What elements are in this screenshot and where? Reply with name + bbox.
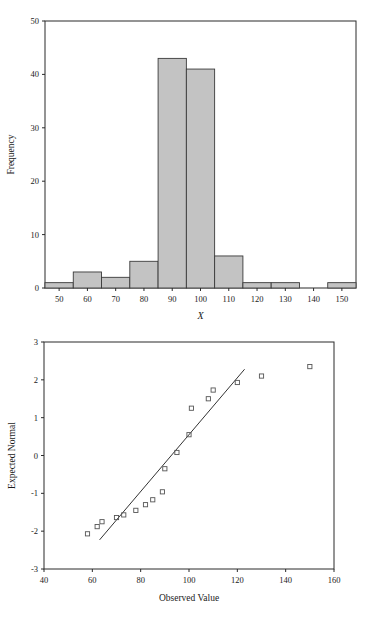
y-axis-tick-label: 2 xyxy=(34,375,38,385)
x-axis-title: Observed Value xyxy=(159,593,219,603)
x-axis-tick-label: 60 xyxy=(88,575,97,585)
x-axis-tick-label: 100 xyxy=(194,294,207,304)
y-axis-tick-label: 3 xyxy=(34,337,38,347)
histogram-bar xyxy=(158,58,186,288)
x-axis-tick-label: 40 xyxy=(40,575,49,585)
x-axis-tick-label: 140 xyxy=(279,575,292,585)
y-axis-tick-label: 10 xyxy=(31,230,40,240)
histogram-bar xyxy=(215,256,243,288)
y-axis-tick-label: 30 xyxy=(31,123,40,133)
qq-data-point xyxy=(100,520,104,524)
y-axis-title: Frequency xyxy=(6,134,16,174)
y-axis-tick-label: 0 xyxy=(35,283,39,293)
qq-data-point xyxy=(163,467,167,471)
qq-data-point xyxy=(160,490,164,494)
qq-data-point xyxy=(206,397,210,401)
statistics-figure: 010203040505060708090100110120130140150X… xyxy=(0,0,371,620)
x-axis-tick-label: 50 xyxy=(55,294,64,304)
qq-data-point xyxy=(143,503,147,507)
x-axis-tick-label: 80 xyxy=(136,575,145,585)
x-axis-tick-label: 80 xyxy=(140,294,149,304)
qq-data-point xyxy=(308,364,312,368)
x-axis-tick-label: 150 xyxy=(335,294,348,304)
qq-plot-frame xyxy=(44,342,334,569)
histogram-bar xyxy=(102,277,130,288)
histogram-bar xyxy=(73,272,101,288)
x-axis-tick-label: 60 xyxy=(83,294,92,304)
histogram-bar xyxy=(328,283,356,288)
histogram-chart: 010203040505060708090100110120130140150X… xyxy=(0,0,371,330)
x-axis-tick-label: 120 xyxy=(251,294,264,304)
y-axis-tick-label: -2 xyxy=(31,526,38,536)
histogram-bar xyxy=(271,283,299,288)
qq-data-point xyxy=(211,388,215,392)
y-axis-tick-label: 20 xyxy=(31,176,40,186)
x-axis-tick-label: 100 xyxy=(183,575,196,585)
x-axis-tick-label: 140 xyxy=(307,294,320,304)
x-axis-tick-label: 130 xyxy=(279,294,292,304)
y-axis-tick-label: -1 xyxy=(31,488,38,498)
histogram-bar xyxy=(243,283,271,288)
y-axis-tick-label: 0 xyxy=(34,451,38,461)
qq-data-point xyxy=(235,380,239,384)
qq-data-point xyxy=(189,406,193,410)
y-axis-title: Expected Normal xyxy=(7,422,17,489)
normal-qq-chart: -3-2-10123406080100120140160Observed Val… xyxy=(0,330,371,620)
y-axis-tick-label: 1 xyxy=(34,413,38,423)
y-axis-tick-label: 50 xyxy=(31,16,40,26)
qq-data-point xyxy=(259,374,263,378)
x-axis-tick-label: 160 xyxy=(328,575,341,585)
histogram-bar xyxy=(186,69,214,288)
qq-data-point xyxy=(134,508,138,512)
x-axis-title: X xyxy=(196,310,204,321)
qq-data-point xyxy=(85,532,89,536)
x-axis-tick-label: 110 xyxy=(223,294,235,304)
x-axis-tick-label: 120 xyxy=(231,575,244,585)
y-axis-tick-label: -3 xyxy=(31,564,38,574)
qq-data-point xyxy=(151,498,155,502)
qq-data-point xyxy=(95,525,99,529)
histogram-bar xyxy=(45,283,73,288)
histogram-bar xyxy=(130,261,158,288)
y-axis-tick-label: 40 xyxy=(31,69,40,79)
x-axis-tick-label: 90 xyxy=(168,294,177,304)
x-axis-tick-label: 70 xyxy=(111,294,120,304)
